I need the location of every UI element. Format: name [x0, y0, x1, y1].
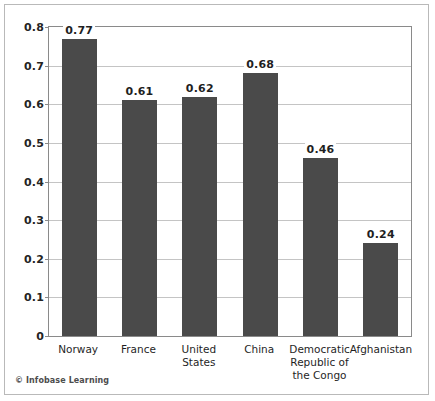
- bar-slot: 0.24: [363, 27, 398, 336]
- x-axis-category-label: France: [108, 343, 168, 356]
- y-axis-tick-label: 0.4: [24, 176, 44, 189]
- bar[interactable]: [122, 100, 157, 336]
- bar-slot: 0.77: [62, 27, 97, 336]
- bar-slot: 0.68: [243, 27, 278, 336]
- bar-value-label: 0.68: [244, 58, 276, 71]
- x-axis-category-label: Democratic Republic of the Congo: [289, 343, 349, 382]
- bar-slot: 0.61: [122, 27, 157, 336]
- bar[interactable]: [243, 73, 278, 336]
- bar-value-label: 0.24: [365, 228, 397, 241]
- bar-value-label: 0.77: [63, 24, 95, 37]
- y-axis-tick-label: 0.8: [24, 21, 44, 34]
- y-axis-tick-label: 0.1: [24, 291, 44, 304]
- copyright-icon: ©: [15, 376, 23, 385]
- bar-value-label: 0.62: [184, 82, 216, 95]
- x-axis-category-label: China: [229, 343, 289, 356]
- y-axis-tick-label: 0.6: [24, 98, 44, 111]
- x-axis-category-label: United States: [169, 343, 229, 369]
- bars-group: 0.770.610.620.680.460.24: [49, 27, 411, 336]
- copyright-text: Infobase Learning: [26, 376, 109, 385]
- plot-area: 00.10.20.30.40.50.60.70.8 0.770.610.620.…: [48, 26, 412, 337]
- y-axis-tick-label: 0.7: [24, 60, 44, 73]
- y-axis-tick-mark: [45, 336, 49, 337]
- bar-slot: 0.62: [182, 27, 217, 336]
- y-axis-tick-label: 0: [36, 330, 44, 343]
- y-axis-tick-label: 0.2: [24, 253, 44, 266]
- copyright-credit: © Infobase Learning: [15, 376, 109, 385]
- bar[interactable]: [62, 39, 97, 336]
- y-axis-tick-label: 0.5: [24, 137, 44, 150]
- y-axis-tick-label: 0.3: [24, 214, 44, 227]
- bar[interactable]: [363, 243, 398, 336]
- x-axis-category-label: Afghanistan: [350, 343, 410, 356]
- x-axis-category-label: Norway: [48, 343, 108, 356]
- bar-value-label: 0.61: [124, 85, 156, 98]
- bar[interactable]: [303, 158, 338, 336]
- bar-value-label: 0.46: [305, 143, 337, 156]
- bar[interactable]: [182, 97, 217, 336]
- bar-slot: 0.46: [303, 27, 338, 336]
- chart-figure-frame: 00.10.20.30.40.50.60.70.8 0.770.610.620.…: [4, 4, 429, 395]
